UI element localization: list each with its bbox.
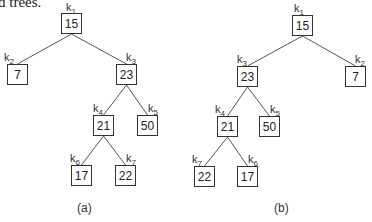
tree-edge — [228, 137, 248, 166]
tree-edge — [104, 136, 126, 165]
tree-node: 23 — [237, 66, 258, 87]
tree-node: 50 — [137, 115, 158, 136]
key-subscript: 3 — [132, 57, 136, 66]
node-key-label: k4 — [215, 104, 225, 118]
tree-node: 21 — [217, 116, 238, 137]
key-subscript: 6 — [254, 159, 258, 168]
tree-edge — [104, 85, 127, 115]
subfigure-label: (a) — [77, 201, 92, 215]
node-key-label: k1 — [66, 2, 76, 16]
key-subscript: 5 — [276, 109, 280, 118]
tree-edge — [127, 85, 148, 115]
tree-node: 7 — [7, 64, 28, 85]
key-subscript: 7 — [198, 159, 202, 168]
node-key-label: k4 — [93, 103, 103, 117]
tree-node: 22 — [115, 165, 136, 186]
key-subscript: 3 — [243, 59, 247, 68]
tree-node: 21 — [93, 115, 114, 136]
node-key-label: k1 — [294, 3, 304, 17]
tree-node: 15 — [292, 15, 313, 36]
tree-edge — [72, 34, 127, 64]
tree-edge — [303, 36, 356, 66]
tree-edges — [0, 0, 372, 222]
tree-node: 50 — [259, 116, 280, 137]
tree-node: 15 — [61, 13, 82, 34]
node-key-label: k7 — [126, 153, 136, 167]
subfigure-label: (b) — [274, 201, 289, 215]
key-subscript: 6 — [76, 158, 80, 167]
key-subscript: 1 — [72, 7, 76, 16]
node-key-label: k5 — [148, 103, 158, 117]
tree-edge — [205, 137, 228, 166]
tree-edge — [248, 36, 303, 66]
node-key-label: k6 — [248, 154, 258, 168]
key-subscript: 1 — [300, 8, 304, 17]
tree-edge — [82, 136, 104, 165]
key-subscript: 2 — [10, 57, 14, 66]
tree-edge — [228, 87, 248, 116]
node-key-label: k3 — [126, 52, 136, 66]
node-key-label: k2 — [4, 52, 14, 66]
tree-node: 23 — [116, 64, 137, 85]
tree-node: 17 — [237, 166, 258, 187]
node-key-label: k5 — [270, 104, 280, 118]
key-subscript: 4 — [221, 109, 225, 118]
key-subscript: 7 — [132, 158, 136, 167]
tree-node: 7 — [345, 66, 366, 87]
node-key-label: k3 — [237, 54, 247, 68]
key-subscript: 4 — [99, 108, 103, 117]
tree-edge — [248, 87, 270, 116]
node-key-label: k2 — [355, 54, 365, 68]
key-subscript: 5 — [154, 108, 158, 117]
node-key-label: k7 — [192, 154, 202, 168]
node-key-label: k6 — [70, 153, 80, 167]
key-subscript: 2 — [361, 59, 365, 68]
tree-node: 17 — [71, 165, 92, 186]
tree-node: 22 — [194, 166, 215, 187]
tree-edge — [18, 34, 72, 64]
